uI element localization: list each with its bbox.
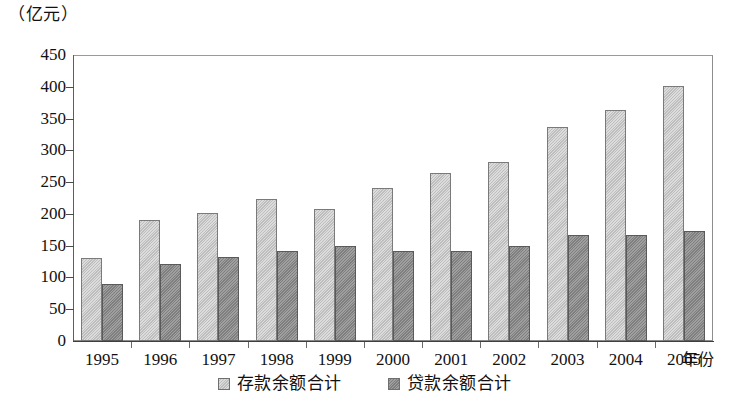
- chart-legend: 存款余额合计贷款余额合计: [0, 374, 729, 393]
- x-axis-tick: [422, 342, 423, 348]
- bar-deposit-2001: [430, 173, 451, 341]
- bar-loan-2002: [509, 246, 530, 341]
- x-axis-tick: [248, 342, 249, 348]
- x-axis-tick: [480, 342, 481, 348]
- bar-loan-1997: [218, 257, 239, 341]
- bar-deposit-1997: [197, 213, 218, 341]
- legend-item-loan: 贷款余额合计: [388, 374, 512, 393]
- bar-loan-2005: [684, 231, 705, 341]
- x-axis-tick-label: 1995: [73, 350, 131, 370]
- x-axis-tick: [538, 342, 539, 348]
- bar-loan-2001: [451, 251, 472, 341]
- x-axis-tick-label: 2002: [480, 350, 538, 370]
- bars-layer: [0, 0, 729, 402]
- x-axis-tick-label: 2003: [539, 350, 597, 370]
- bar-deposit-2005: [663, 86, 684, 341]
- x-axis-tick: [189, 342, 190, 348]
- x-axis-tick-label: 1998: [248, 350, 306, 370]
- legend-swatch-loan-icon: [388, 378, 400, 390]
- x-axis-title: 年份: [682, 350, 714, 370]
- x-axis-tick-label: 2004: [597, 350, 655, 370]
- x-axis-tick-label: 1997: [189, 350, 247, 370]
- bar-loan-2003: [568, 235, 589, 341]
- legend-item-deposit: 存款余额合计: [218, 374, 342, 393]
- bar-deposit-1996: [139, 220, 160, 341]
- bar-deposit-1995: [81, 258, 102, 341]
- x-axis-tick-label: 1999: [306, 350, 364, 370]
- bar-chart-figure: （亿元） 450400350300250200150100500 1995199…: [0, 0, 729, 402]
- x-axis-tick: [655, 342, 656, 348]
- legend-label: 贷款余额合计: [407, 374, 512, 393]
- bar-deposit-1999: [314, 209, 335, 341]
- bar-loan-1995: [102, 284, 123, 341]
- bar-loan-1996: [160, 264, 181, 341]
- bar-deposit-2002: [488, 162, 509, 341]
- bar-deposit-2003: [547, 127, 568, 341]
- bar-loan-1999: [335, 246, 356, 341]
- x-axis-tick: [131, 342, 132, 348]
- bar-deposit-2004: [605, 110, 626, 341]
- bar-loan-2000: [393, 251, 414, 341]
- x-axis-tick: [364, 342, 365, 348]
- x-axis-tick: [597, 342, 598, 348]
- bar-deposit-2000: [372, 188, 393, 341]
- x-axis-tick-label: 1996: [131, 350, 189, 370]
- legend-swatch-deposit-icon: [218, 378, 230, 390]
- x-axis-tick-label: 2000: [364, 350, 422, 370]
- bar-loan-2004: [626, 235, 647, 341]
- bar-deposit-1998: [256, 199, 277, 341]
- x-axis-tick: [306, 342, 307, 348]
- x-axis-tick-label: 2001: [422, 350, 480, 370]
- legend-label: 存款余额合计: [237, 374, 342, 393]
- bar-loan-1998: [277, 251, 298, 341]
